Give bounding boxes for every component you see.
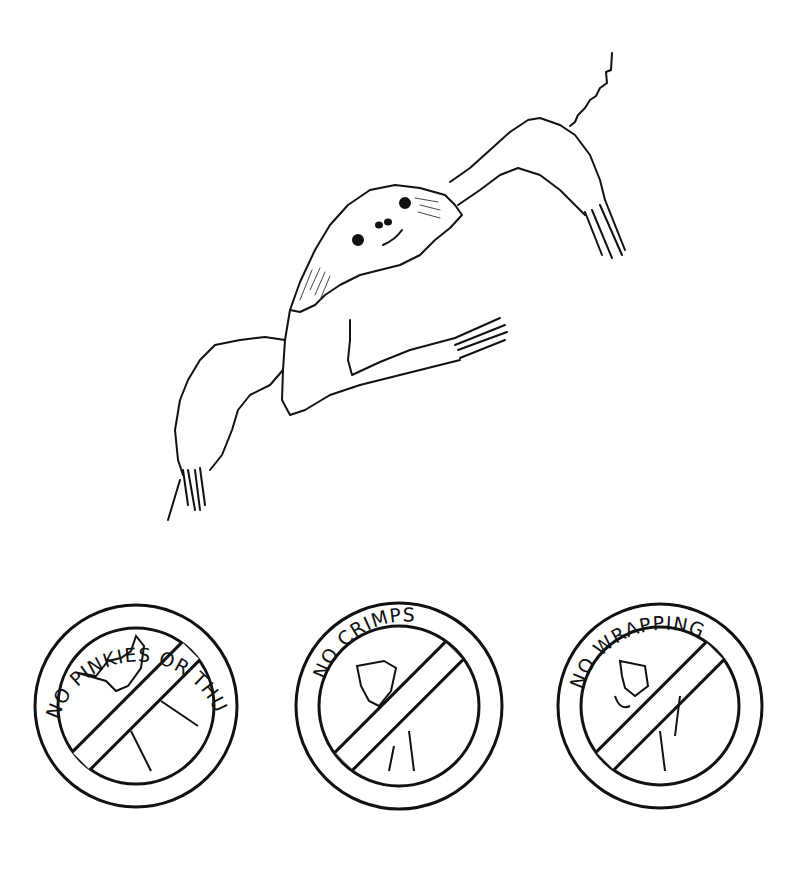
sloth-illustration: NO PINKIES OR THUMBS NO CRIMPS NO WRAP [0, 0, 799, 875]
sign-no-wrapping [558, 604, 762, 808]
left-leg [175, 337, 285, 475]
sign-no-crimps [296, 603, 502, 809]
sign-label-2: NO CRIMPS [308, 603, 416, 681]
sign-label-1: NO PINKIES OR THUMBS [0, 0, 232, 721]
sign-text-1: NO PINKIES OR THUMBS [0, 0, 232, 721]
illustration-canvas: NO PINKIES OR THUMBS NO CRIMPS NO WRAP [0, 0, 799, 875]
svg-text:NO PINKIES OR THUMBS: NO PINKIES OR THUMBS [0, 0, 232, 721]
branch [570, 53, 612, 126]
upper-right-arm [450, 118, 605, 200]
sloth-body [282, 310, 460, 415]
svg-text:NO CRIMPS: NO CRIMPS [308, 603, 416, 681]
